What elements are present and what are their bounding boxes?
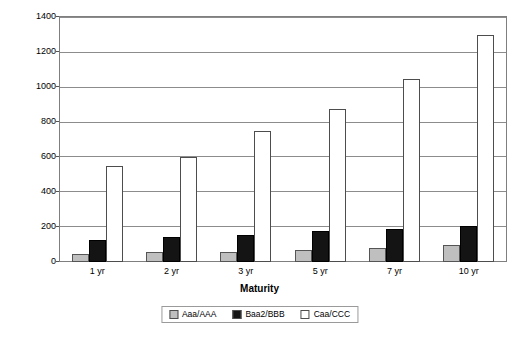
- y-tick-label: 1000: [22, 82, 56, 91]
- bar-baa2-bbb: [312, 231, 329, 262]
- y-axis: 0200400600800100012001400: [0, 16, 56, 262]
- y-tick-label: 600: [22, 152, 56, 161]
- bar-aaa-aaa: [369, 248, 386, 262]
- bar-aaa-aaa: [295, 250, 312, 262]
- legend-label: Baa2/BBB: [245, 310, 284, 319]
- bar-group: [357, 17, 431, 262]
- bar-baa2-bbb: [163, 237, 180, 262]
- bar-baa2-bbb: [460, 226, 477, 262]
- legend-label: Caa/CCC: [314, 310, 350, 319]
- bar-group: [209, 17, 283, 262]
- y-tick-label: 400: [22, 187, 56, 196]
- x-axis-title: Maturity: [0, 283, 519, 294]
- bar-aaa-aaa: [443, 245, 460, 262]
- bar-groups: [60, 17, 506, 262]
- x-tick-label: 10 yr: [432, 266, 506, 276]
- bar-caa-ccc: [180, 157, 197, 262]
- bar-caa-ccc: [403, 79, 420, 262]
- legend-item: Baa2/BBB: [232, 310, 284, 319]
- x-tick-label: 2 yr: [134, 266, 208, 276]
- legend-swatch-icon: [301, 310, 310, 319]
- x-tick-label: 1 yr: [60, 266, 134, 276]
- x-tick-label: 7 yr: [357, 266, 431, 276]
- y-tick-label: 200: [22, 222, 56, 231]
- legend-swatch-icon: [169, 310, 178, 319]
- bar-group: [432, 17, 506, 262]
- y-tick-label: 1200: [22, 47, 56, 56]
- bar-baa2-bbb: [89, 240, 106, 262]
- legend-item: Caa/CCC: [301, 310, 350, 319]
- bar-aaa-aaa: [146, 252, 163, 262]
- legend-swatch-icon: [232, 310, 241, 319]
- y-tick-label: 800: [22, 117, 56, 126]
- x-tick-label: 3 yr: [209, 266, 283, 276]
- bar-aaa-aaa: [220, 252, 237, 262]
- bar-group: [134, 17, 208, 262]
- y-tick-label: 0: [22, 257, 56, 266]
- bar-caa-ccc: [477, 35, 494, 262]
- bar-group: [283, 17, 357, 262]
- legend-item: Aaa/AAA: [169, 310, 217, 319]
- bar-baa2-bbb: [237, 235, 254, 262]
- bar-aaa-aaa: [72, 254, 89, 262]
- chart-legend: Aaa/AAABaa2/BBBCaa/CCC: [161, 306, 358, 323]
- bar-group: [60, 17, 134, 262]
- legend-label: Aaa/AAA: [182, 310, 217, 319]
- y-tick-label: 1400: [22, 12, 56, 21]
- bar-caa-ccc: [329, 109, 346, 262]
- x-axis-labels: 1 yr2 yr3 yr5 yr7 yr10 yr: [60, 266, 506, 276]
- bar-baa2-bbb: [386, 229, 403, 262]
- x-tick-label: 5 yr: [283, 266, 357, 276]
- bar-caa-ccc: [254, 131, 271, 262]
- bar-chart: 0200400600800100012001400 1 yr2 yr3 yr5 …: [0, 0, 519, 337]
- bar-caa-ccc: [106, 166, 123, 262]
